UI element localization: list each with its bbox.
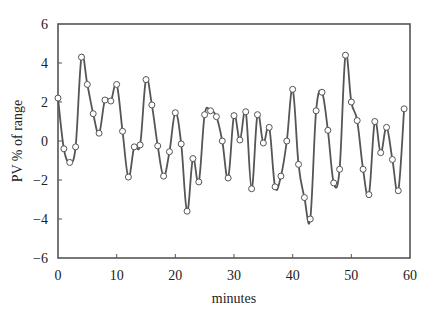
data-point-marker	[114, 81, 120, 87]
data-point-marker	[125, 174, 131, 180]
data-point-marker	[108, 98, 114, 104]
data-point-marker	[395, 188, 401, 194]
y-tick-label: 0	[41, 134, 48, 149]
data-point-marker	[73, 144, 79, 150]
data-point-marker	[190, 156, 196, 162]
data-point-marker	[213, 114, 219, 120]
data-point-marker	[161, 173, 167, 179]
data-point-marker	[131, 144, 137, 150]
data-series-line	[58, 53, 404, 224]
data-point-marker	[120, 128, 126, 134]
data-point-marker	[337, 166, 343, 172]
pv-time-series-chart: 0102030405060 −6−4−20246 minutes PV % of…	[0, 0, 430, 316]
data-point-marker	[155, 143, 161, 149]
y-tick-label: 6	[41, 17, 48, 32]
data-point-marker	[208, 108, 214, 114]
data-point-marker	[384, 124, 390, 130]
data-point-marker	[301, 195, 307, 201]
data-point-marker	[260, 140, 266, 146]
x-axis-label: minutes	[212, 291, 256, 306]
data-point-marker	[272, 184, 278, 190]
x-tick-label: 40	[286, 268, 300, 283]
y-tick-label: 4	[41, 56, 48, 71]
y-tick-labels: −6−4−20246	[33, 17, 48, 266]
x-tick-label: 60	[403, 268, 417, 283]
x-tick-labels: 0102030405060	[55, 268, 418, 283]
x-tick-label: 50	[344, 268, 358, 283]
data-point-marker	[360, 166, 366, 172]
data-point-marker	[178, 141, 184, 147]
data-point-marker	[354, 118, 360, 124]
data-point-marker	[313, 108, 319, 114]
data-point-marker	[331, 180, 337, 186]
data-point-marker	[348, 99, 354, 105]
x-tick-label: 30	[227, 268, 241, 283]
data-point-marker	[249, 186, 255, 192]
data-point-marker	[78, 54, 84, 60]
data-point-marker	[90, 111, 96, 117]
data-point-marker	[266, 124, 272, 130]
x-tick-label: 0	[55, 268, 62, 283]
y-tick-label: −2	[33, 173, 48, 188]
data-point-marker	[378, 150, 384, 156]
data-point-marker	[237, 137, 243, 143]
data-point-marker	[243, 109, 249, 115]
data-point-marker	[55, 95, 61, 101]
data-point-marker	[96, 130, 102, 136]
series-path	[58, 53, 404, 224]
plot-frame	[58, 24, 410, 258]
data-point-marker	[319, 89, 325, 95]
data-point-marker	[202, 112, 208, 118]
y-tick-label: 2	[41, 95, 48, 110]
plot-border	[58, 24, 410, 258]
data-point-marker	[61, 146, 67, 152]
data-point-marker	[231, 113, 237, 119]
data-point-marker	[166, 149, 172, 155]
y-axis-label: PV % of range	[10, 100, 25, 183]
data-point-marker	[184, 208, 190, 214]
data-point-marker	[137, 142, 143, 148]
data-point-marker	[219, 138, 225, 144]
data-point-marker	[172, 110, 178, 116]
data-point-marker	[67, 159, 73, 165]
axis-ticks	[58, 63, 351, 258]
y-tick-label: −6	[33, 251, 48, 266]
chart-svg: 0102030405060 −6−4−20246 minutes PV % of…	[0, 0, 430, 316]
data-point-marker	[342, 52, 348, 58]
x-tick-label: 20	[168, 268, 182, 283]
data-point-marker	[307, 216, 313, 222]
data-point-marker	[196, 179, 202, 185]
data-point-marker	[225, 175, 231, 181]
data-point-marker	[143, 77, 149, 83]
data-point-marker	[325, 127, 331, 133]
data-point-marker	[372, 119, 378, 125]
data-point-marker	[389, 157, 395, 163]
data-point-marker	[254, 112, 260, 118]
data-point-marker	[401, 106, 407, 112]
x-tick-label: 10	[110, 268, 124, 283]
y-tick-label: −4	[33, 212, 48, 227]
data-point-marker	[296, 161, 302, 167]
data-point-marker	[84, 81, 90, 87]
data-point-marker	[366, 192, 372, 198]
data-point-marker	[290, 86, 296, 92]
data-point-marker	[278, 173, 284, 179]
data-point-marker	[149, 102, 155, 108]
data-point-marker	[102, 97, 108, 103]
data-point-marker	[284, 138, 290, 144]
